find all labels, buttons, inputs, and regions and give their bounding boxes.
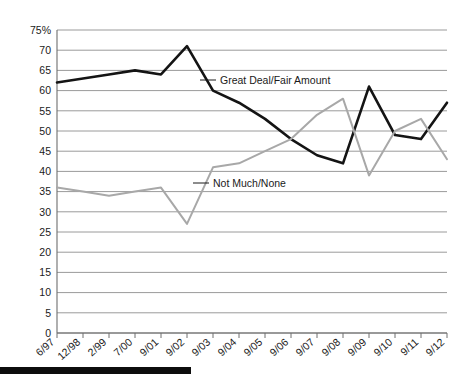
y-axis-tick-label: 55 — [39, 105, 51, 117]
y-axis-tick-label: 35 — [39, 185, 51, 197]
series-label-not-much-none: Not Much/None — [213, 177, 286, 189]
y-axis-tick-label: 75% — [30, 24, 51, 36]
y-axis-tick-label: 10 — [39, 286, 51, 298]
footer-rule — [0, 367, 191, 374]
y-axis-tick-label: 40 — [39, 165, 51, 177]
y-axis-tick-label: 15 — [39, 266, 51, 278]
y-axis-tick-label: 20 — [39, 246, 51, 258]
line-chart: 75%7065605550454035302520151050 6/9712/9… — [0, 0, 453, 384]
y-axis-tick-label: 50 — [39, 125, 51, 137]
y-axis-tick-label: 5 — [45, 307, 51, 319]
chart-container: 75%7065605550454035302520151050 6/9712/9… — [0, 0, 453, 384]
y-axis-tick-label: 60 — [39, 84, 51, 96]
y-axis-tick-label: 30 — [39, 206, 51, 218]
y-axis-tick-label: 25 — [39, 226, 51, 238]
series-label-great-deal-fair-amount: Great Deal/Fair Amount — [220, 74, 330, 86]
y-axis-tick-label: 45 — [39, 145, 51, 157]
y-axis-tick-label: 65 — [39, 64, 51, 76]
y-axis-tick-label: 70 — [39, 44, 51, 56]
